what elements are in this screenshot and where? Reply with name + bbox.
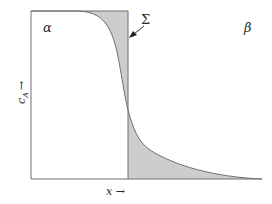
excess-area-left <box>75 11 128 110</box>
beta-phase-label: β <box>243 20 252 35</box>
concentration-profile-diagram: Σ α β x → cA→ <box>0 0 272 204</box>
y-axis-label-sub: A <box>21 92 30 99</box>
y-axis-label: cA→ <box>15 81 30 104</box>
x-axis-label: x → <box>106 185 125 198</box>
alpha-phase-label: α <box>43 20 52 35</box>
svg-text:cA→: cA→ <box>15 81 30 104</box>
interface-pointer-line <box>134 26 144 34</box>
interface-label: Σ <box>141 12 150 27</box>
y-axis-label-arrow: → <box>15 81 28 90</box>
